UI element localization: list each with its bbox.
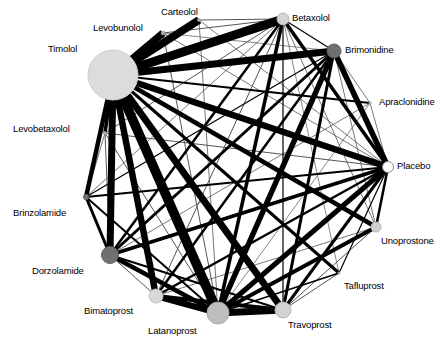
network-node-latanoprost[interactable] [207, 302, 229, 324]
node-label-travoprost: Travoprost [288, 320, 332, 330]
network-node-brinzolamide[interactable] [83, 194, 89, 200]
network-node-unoprostone[interactable] [371, 222, 381, 232]
network-node-travoprost[interactable] [275, 302, 291, 318]
node-label-carteolol: Carteolol [161, 7, 198, 17]
node-label-levobetaxolol: Levobetaxolol [13, 124, 70, 134]
node-label-tafluprost: Tafluprost [344, 281, 384, 291]
network-node-placebo[interactable] [383, 162, 394, 173]
network-node-apraclonidine[interactable] [369, 102, 371, 104]
network-node-levobunolol[interactable] [161, 31, 165, 35]
node-label-betaxolol: Betaxolol [292, 13, 330, 23]
network-edge [86, 197, 110, 255]
node-label-placebo: Placebo [397, 161, 430, 171]
network-edge [283, 273, 339, 310]
network-node-brimonidine[interactable] [327, 44, 341, 58]
network-node-tafluprost[interactable] [338, 272, 340, 274]
node-label-brimonidine: Brimonidine [345, 45, 394, 55]
network-node-levobetaxolol[interactable] [103, 131, 106, 134]
node-label-dorzolamide: Dorzolamide [32, 266, 84, 276]
node-label-unoprostone: Unoprostone [381, 236, 434, 246]
network-node-bimatoprost[interactable] [149, 289, 163, 303]
node-label-apraclonidine: Apraclonidine [379, 97, 435, 107]
network-node-carteolol[interactable] [197, 18, 200, 21]
node-label-brinzolamide: Brinzolamide [13, 208, 66, 218]
network-node-timolol[interactable] [88, 50, 138, 100]
node-label-timolol: Timolol [48, 44, 77, 54]
network-edge [110, 75, 113, 255]
network-graph-figure: TimololLevobunololCarteololBetaxololBrim… [0, 0, 446, 346]
network-node-betaxolol[interactable] [277, 13, 289, 25]
node-label-latanoprost: Latanoprost [148, 326, 197, 336]
node-label-bimatoprost: Bimatoprost [84, 306, 133, 316]
node-label-levobunolol: Levobunolol [93, 23, 143, 33]
network-node-dorzolamide[interactable] [102, 247, 119, 264]
